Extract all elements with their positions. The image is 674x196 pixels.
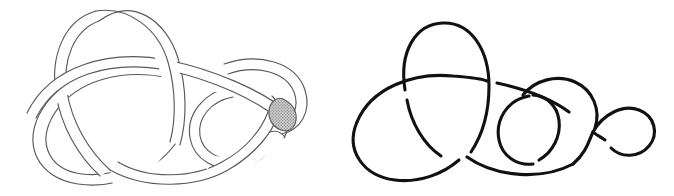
curve-right-curl xyxy=(593,108,654,155)
banded-knot-diagram xyxy=(0,0,337,196)
figure-root xyxy=(0,0,674,196)
curve-left-lobe xyxy=(353,122,573,181)
curve-knot-diagram xyxy=(337,0,674,196)
curve-tall-loop xyxy=(404,23,489,156)
band-vertical-loop xyxy=(55,11,110,176)
curve-right-ring xyxy=(498,95,559,164)
